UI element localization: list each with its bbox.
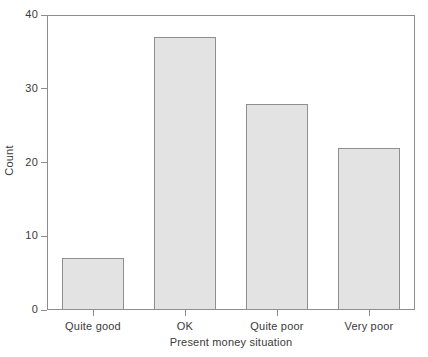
bar [62, 258, 124, 310]
x-axis-tick-label: Quite good [47, 320, 139, 332]
y-axis-title: Count [4, 136, 15, 186]
bar [246, 104, 308, 311]
x-axis-title: Present money situation [47, 336, 415, 348]
y-axis-tick-label: 40 [0, 9, 38, 20]
y-axis-tick-label: 0 [0, 304, 38, 315]
x-axis-tick-label: Very poor [323, 320, 415, 332]
x-axis-tick-label: Quite poor [231, 320, 323, 332]
y-axis-tick-label: 10 [0, 230, 38, 241]
bar [338, 148, 400, 310]
y-axis-tick [41, 88, 47, 89]
x-axis-tick [93, 310, 94, 316]
bar-chart: 010203040 Count Quite goodOKQuite poorVe… [0, 0, 428, 357]
y-axis-tick [41, 162, 47, 163]
y-axis-tick [41, 310, 47, 311]
y-axis-tick-label: 30 [0, 83, 38, 94]
y-axis-tick [41, 15, 47, 16]
y-axis-tick [41, 236, 47, 237]
x-axis-tick [185, 310, 186, 316]
x-axis-tick-label: OK [139, 320, 231, 332]
bar [154, 37, 216, 310]
x-axis-tick [369, 310, 370, 316]
x-axis-tick [277, 310, 278, 316]
